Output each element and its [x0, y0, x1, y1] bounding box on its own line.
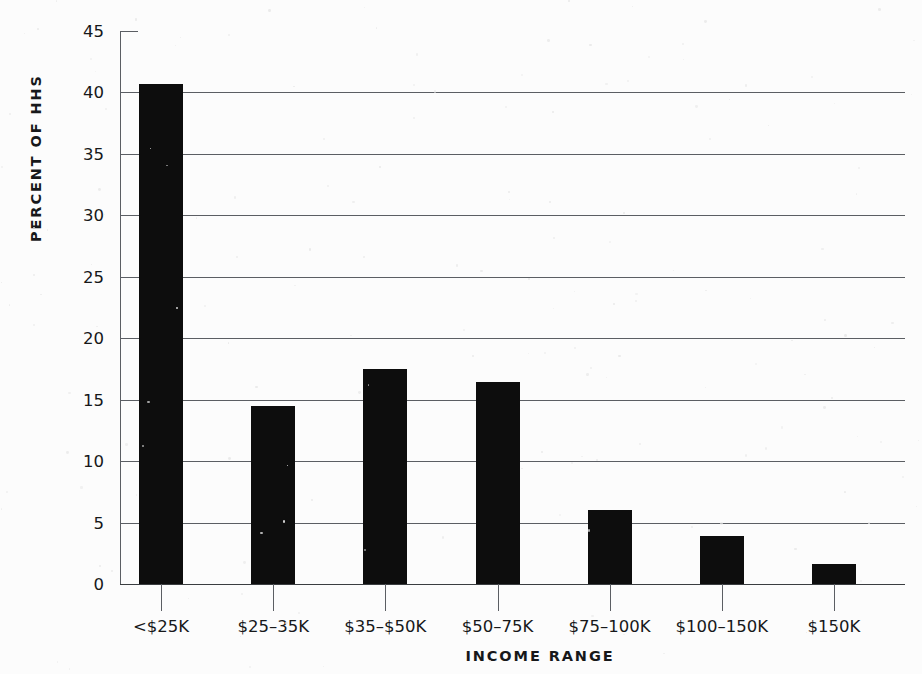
- scan-noise: [90, 58, 92, 60]
- scan-noise: [104, 214, 105, 215]
- scan-noise: [188, 598, 189, 599]
- y-tick-label: 0: [42, 575, 104, 594]
- bar: [363, 369, 407, 584]
- gridline: [120, 277, 905, 278]
- y-tick-label: 15: [42, 390, 104, 409]
- y-tick-label: 30: [42, 206, 104, 225]
- y-tick-label: 5: [42, 513, 104, 532]
- y-tick-label: 10: [42, 452, 104, 471]
- x-axis-tick: [385, 584, 386, 611]
- gridline: [120, 215, 905, 216]
- scan-noise: [9, 304, 10, 305]
- x-axis-tick: [161, 584, 162, 611]
- plot-area: 051015202530354045<$25K$25–35K$35–$50K$5…: [120, 31, 905, 584]
- scan-noise: [916, 506, 917, 507]
- scan-noise: [98, 188, 101, 191]
- scan-noise: [1, 166, 3, 168]
- scan-noise: [568, 0, 570, 2]
- scan-noise: [298, 612, 300, 614]
- scan-noise: [24, 33, 25, 34]
- bar: [812, 564, 856, 584]
- x-axis-title: INCOME RANGE: [165, 648, 915, 664]
- scan-noise: [135, 18, 137, 20]
- scan-noise: [323, 666, 324, 667]
- gridline: [120, 584, 905, 585]
- gridline: [120, 92, 905, 93]
- scan-noise: [105, 108, 108, 111]
- x-axis-tick: [722, 584, 723, 611]
- x-axis-tick: [273, 584, 274, 611]
- bar: [700, 536, 744, 584]
- scan-noise: [95, 71, 96, 72]
- scan-noise: [99, 565, 101, 567]
- y-axis-spine: [120, 31, 121, 584]
- x-axis-tick: [610, 584, 611, 611]
- scan-noise: [911, 94, 913, 96]
- bar: [251, 406, 295, 584]
- y-tick-label: 35: [42, 144, 104, 163]
- scan-noise: [241, 593, 243, 595]
- y-tick-label: 20: [42, 329, 104, 348]
- gridline: [120, 31, 138, 32]
- x-tick-label: $150K: [759, 617, 909, 636]
- bar: [139, 84, 183, 584]
- scan-noise: [47, 229, 48, 230]
- scan-noise: [913, 40, 915, 42]
- scan-noise: [249, 666, 251, 668]
- scan-noise: [80, 486, 82, 488]
- scan-noise: [1, 282, 2, 283]
- scan-noise: [240, 636, 242, 638]
- bar: [476, 382, 520, 584]
- y-tick-label: 45: [42, 22, 104, 41]
- scan-noise: [268, 9, 271, 12]
- scan-noise: [56, 0, 57, 1]
- x-axis-tick: [498, 584, 499, 611]
- scan-noise: [364, 7, 366, 9]
- gridline: [120, 338, 905, 339]
- gridline: [120, 154, 905, 155]
- scan-noise: [632, 6, 633, 7]
- y-tick-label: 40: [42, 83, 104, 102]
- scan-noise: [704, 20, 707, 23]
- scan-noise: [376, 27, 377, 28]
- scan-noise: [57, 661, 59, 663]
- scan-noise: [878, 8, 881, 11]
- x-axis-tick: [834, 584, 835, 611]
- y-tick-label: 25: [42, 267, 104, 286]
- bar-chart: PERCENT OF HHS 051015202530354045<$25K$2…: [0, 0, 922, 674]
- scan-noise: [96, 326, 97, 327]
- scan-noise: [6, 491, 8, 493]
- scan-noise: [33, 324, 35, 326]
- bar: [588, 510, 632, 584]
- scan-noise: [1, 508, 3, 510]
- scan-noise: [918, 440, 919, 441]
- scan-noise: [37, 28, 39, 30]
- scan-noise: [69, 668, 70, 669]
- scan-noise: [91, 264, 93, 266]
- scan-noise: [111, 570, 113, 572]
- scan-noise: [40, 294, 41, 295]
- scan-noise: [9, 113, 11, 115]
